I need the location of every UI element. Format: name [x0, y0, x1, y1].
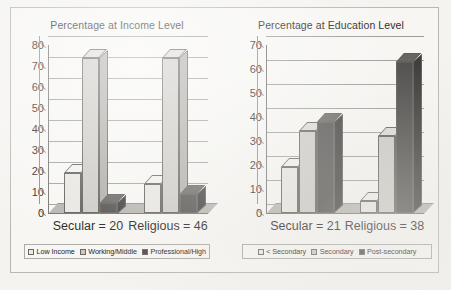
bar-front-face	[144, 184, 161, 213]
plot-area-education: 010203040506070	[266, 45, 424, 213]
chart-title-income: Percentage at Income Level	[10, 19, 224, 31]
bar	[299, 131, 316, 213]
bar-side-face	[99, 50, 108, 213]
chart-title-education: Percentage at Education Level	[224, 19, 438, 31]
bar	[396, 62, 413, 213]
y-axis-tick-label: 30	[250, 135, 262, 147]
legend-item[interactable]: Low Income	[28, 247, 75, 256]
chart-income: Percentage at Income Level 0102030405060…	[10, 7, 224, 273]
category-label: Religious = 46	[128, 219, 208, 233]
y-axis-tick-label: 40	[32, 123, 44, 135]
bar	[82, 58, 99, 213]
legend-item[interactable]: Professional/High	[142, 247, 206, 256]
legend-item[interactable]: < Secondary	[258, 247, 307, 256]
y-axis-tick-label: 20	[250, 159, 262, 171]
legend-label: Secondary	[320, 247, 354, 256]
legend-label: < Secondary	[266, 247, 306, 256]
legend-swatch-icon	[311, 249, 317, 255]
bar	[64, 173, 81, 213]
legend-label: Low Income	[37, 247, 75, 256]
bar-groups-education	[266, 45, 424, 213]
y-axis-back-income	[39, 36, 40, 204]
bar-front-face	[299, 131, 316, 213]
y-axis-tick-label: 10	[250, 183, 262, 195]
y-axis-tick-label: 30	[32, 144, 44, 156]
legend-label: Working/Middle	[88, 247, 137, 256]
bar-front-face	[396, 62, 413, 213]
bar-front-face	[180, 194, 197, 213]
bar-front-face	[82, 58, 99, 213]
bar-front-face	[378, 136, 395, 213]
legend-education: < SecondarySecondaryPost-secondary	[242, 244, 432, 259]
bar	[317, 122, 334, 213]
bar-front-face	[317, 122, 334, 213]
charts-container: Percentage at Income Level 0102030405060…	[10, 7, 439, 273]
legend-swatch-icon	[258, 249, 264, 255]
y-axis-tick-label: 60	[250, 63, 262, 75]
gridline	[266, 36, 424, 37]
bar	[144, 184, 161, 213]
legend-label: Professional/High	[150, 247, 205, 256]
bar-front-face	[281, 167, 298, 213]
category-labels-education: Secular = 21Religious = 38	[266, 219, 434, 239]
category-label: Secular = 20	[53, 219, 124, 233]
legend-item[interactable]: Secondary	[311, 247, 353, 256]
bar-front-face	[162, 58, 179, 213]
legend-swatch-icon	[359, 249, 365, 255]
y-axis-tick-label: 80	[32, 39, 44, 51]
y-axis-tick-label: 60	[32, 81, 44, 93]
bar	[162, 58, 179, 213]
y-axis-tick-label: 50	[250, 87, 262, 99]
category-label: Religious = 38	[345, 219, 425, 233]
bar-side-face	[334, 114, 343, 213]
bar-group	[128, 45, 208, 213]
figure-page: Percentage at Income Level 0102030405060…	[0, 0, 451, 290]
y-axis-tick-label: 40	[250, 111, 262, 123]
gridline	[48, 36, 208, 37]
plot-area-income: 01020304050607080	[48, 45, 208, 213]
y-axis-tick-label: 50	[32, 102, 44, 114]
y-axis-tick-label: 70	[32, 60, 44, 72]
bar	[100, 203, 117, 214]
bar-front-face	[360, 201, 377, 213]
bar-group	[48, 45, 128, 213]
bar-group	[266, 45, 345, 213]
y-axis-tick-label: 0	[256, 207, 262, 219]
legend-label: Post-secondary	[367, 247, 416, 256]
x-axis-education	[266, 213, 424, 214]
y-axis-tick-label: 10	[32, 186, 44, 198]
y-axis-back-education	[257, 36, 258, 204]
legend-item[interactable]: Post-secondary	[359, 247, 417, 256]
legend-income: Low IncomeWorking/MiddleProfessional/Hig…	[24, 244, 210, 259]
bar-groups-income	[48, 45, 208, 213]
bar-group	[345, 45, 424, 213]
bar	[378, 136, 395, 213]
legend-swatch-icon	[28, 249, 34, 255]
legend-swatch-icon	[142, 249, 148, 255]
bar-front-face	[100, 203, 117, 214]
y-axis-tick-label: 70	[250, 39, 262, 51]
category-label: Secular = 21	[270, 219, 341, 233]
bar	[360, 201, 377, 213]
bar-side-face	[413, 54, 422, 213]
legend-swatch-icon	[80, 249, 86, 255]
legend-item[interactable]: Working/Middle	[80, 247, 137, 256]
category-labels-income: Secular = 20Religious = 46	[48, 219, 218, 239]
bar	[180, 194, 197, 213]
x-axis-income	[48, 213, 208, 214]
y-axis-tick-label: 0	[38, 207, 44, 219]
chart-education: Percentage at Education Level 0102030405…	[224, 7, 438, 273]
bar-front-face	[64, 173, 81, 213]
bar	[281, 167, 298, 213]
y-axis-tick-label: 20	[32, 165, 44, 177]
